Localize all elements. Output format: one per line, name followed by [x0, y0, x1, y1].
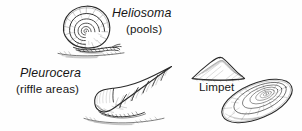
limpet-side-view-drawing	[192, 57, 245, 82]
label-limpet: Limpet	[199, 80, 234, 94]
pleurocera-snail-drawing	[84, 67, 172, 125]
label-pleurocera: Pleurocera (riffle areas)	[20, 63, 81, 95]
snail-illustration-figure: Heliosoma (pools) Pleurocera (riffle are…	[0, 0, 302, 131]
heliosoma-scientific-name: Heliosoma	[112, 6, 171, 20]
pleurocera-scientific-name: Pleurocera	[20, 66, 81, 80]
heliosoma-habitat: (pools)	[126, 22, 171, 35]
label-heliosoma: Heliosoma (pools)	[112, 3, 171, 35]
pleurocera-habitat: (riffle areas)	[16, 82, 81, 95]
limpet-common-name: Limpet	[199, 80, 234, 93]
